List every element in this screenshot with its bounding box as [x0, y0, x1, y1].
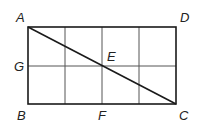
rectangle-grid-diagram: A D B C G E F — [0, 0, 201, 127]
label-A: A — [15, 10, 25, 25]
label-C: C — [179, 108, 189, 123]
label-G: G — [14, 59, 24, 74]
label-F: F — [98, 108, 107, 123]
label-E: E — [107, 49, 116, 64]
label-B: B — [17, 108, 26, 123]
label-D: D — [180, 10, 189, 25]
